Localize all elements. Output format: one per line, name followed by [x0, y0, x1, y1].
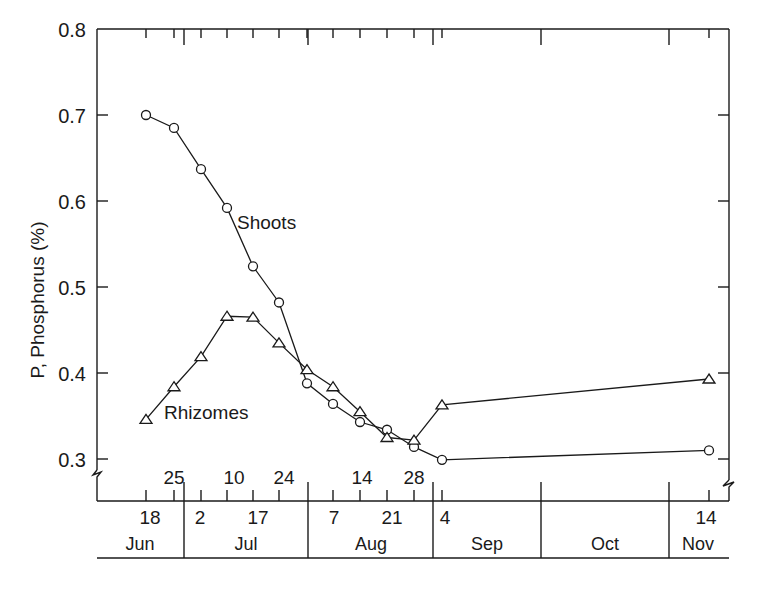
x-tick-label-upper: 14 [351, 467, 373, 488]
circle-marker [356, 418, 365, 427]
circle-marker [705, 446, 714, 455]
y-tick-label: 0.5 [58, 277, 86, 299]
circle-marker [438, 455, 447, 464]
shoots-label: Shoots [237, 212, 296, 233]
circle-marker [329, 399, 338, 408]
month-label: Jul [234, 534, 257, 554]
x-tick-label-upper: 10 [223, 467, 244, 488]
month-label: Aug [355, 534, 387, 554]
x-tick-label-upper: 24 [273, 467, 295, 488]
x-tick-label-lower: 21 [381, 507, 402, 528]
triangle-marker [168, 382, 180, 391]
x-tick-label-lower: 18 [139, 507, 160, 528]
rhizomes-label: Rhizomes [164, 402, 248, 423]
circle-marker [249, 262, 258, 271]
circle-marker [142, 111, 151, 120]
rhizomes-series [140, 311, 715, 444]
circle-marker [197, 165, 206, 174]
month-label: Jun [125, 534, 154, 554]
x-tick-label-lower: 7 [329, 507, 340, 528]
y-axis-tick-labels: 0.30.40.50.60.70.8 [58, 19, 86, 471]
x-tick-labels-lower: 18217721414 [139, 507, 717, 528]
x-tick-label-lower: 4 [440, 507, 451, 528]
circle-marker [223, 203, 232, 212]
month-label: Nov [682, 534, 714, 554]
triangle-marker [703, 374, 715, 383]
month-label: Sep [471, 534, 503, 554]
circle-marker [275, 298, 284, 307]
x-tick-label-upper: 25 [163, 467, 184, 488]
circle-marker [303, 379, 312, 388]
x-tick-label-lower: 14 [695, 507, 717, 528]
phosphorus-chart: 0.30.40.50.60.70.8 2510241428 1821772141… [0, 0, 762, 590]
circle-marker [170, 123, 179, 132]
y-tick-label: 0.4 [58, 363, 86, 385]
triangle-marker [327, 382, 339, 391]
x-tick-label-upper: 28 [403, 467, 424, 488]
y-tick-label: 0.3 [58, 449, 86, 471]
y-axis-label: P, Phosphorus (%) [27, 221, 48, 378]
x-tick-labels-upper: 2510241428 [163, 467, 424, 488]
top-axis-ticks [146, 29, 709, 45]
y-tick-label: 0.8 [58, 19, 86, 41]
y-tick-label: 0.7 [58, 105, 86, 127]
x-tick-label-lower: 17 [247, 507, 268, 528]
month-labels: JunJulAugSepOctNov [125, 534, 714, 554]
triangle-marker [195, 352, 207, 361]
y-tick-label: 0.6 [58, 191, 86, 213]
triangle-marker [140, 414, 152, 423]
month-label: Oct [591, 534, 619, 554]
bottom-axis-ticks [146, 490, 709, 501]
x-tick-label-lower: 2 [195, 507, 206, 528]
